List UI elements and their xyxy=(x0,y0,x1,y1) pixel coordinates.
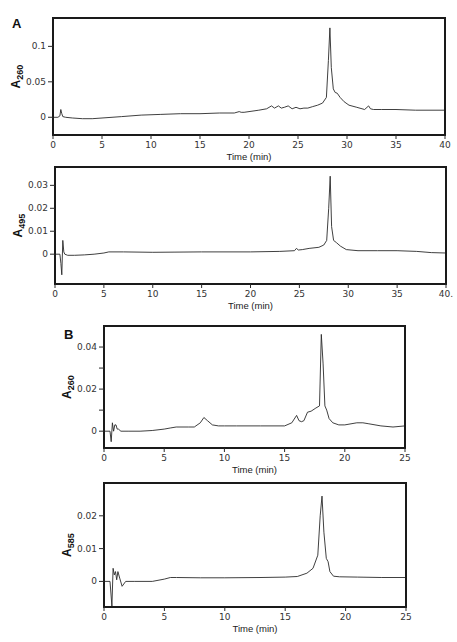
x-tick-label: 0 xyxy=(52,289,58,299)
chart-B-260: 051015202500.020.04Time (min)A260 xyxy=(60,326,411,475)
x-tick-label: 25 xyxy=(294,289,305,299)
plots: 051015202530354000.050.1Time (min)A26005… xyxy=(9,18,453,634)
x-tick-label: 0 xyxy=(101,612,107,622)
x-tick-label: 5 xyxy=(99,140,105,150)
y-tick-label: 0.02 xyxy=(77,511,97,521)
x-tick-label: 5 xyxy=(162,612,168,622)
trace-line xyxy=(53,28,445,119)
x-tick-label: 20 xyxy=(339,453,351,463)
y-tick-label: 0.1 xyxy=(32,41,46,51)
panel-label: B xyxy=(64,327,73,342)
x-axis-label: Time (min) xyxy=(232,464,277,475)
y-tick-label: 0.04 xyxy=(77,342,97,352)
x-tick-label: 40 xyxy=(439,140,451,150)
plot-frame xyxy=(104,483,406,607)
y-tick-label: 0.05 xyxy=(26,77,46,87)
chart-A-260: 051015202530354000.050.1Time (min)A260 xyxy=(9,18,451,162)
x-tick-label: 5 xyxy=(101,289,107,299)
x-tick-label: 10 xyxy=(219,453,231,463)
plot-frame xyxy=(55,167,446,284)
x-tick-label: 20 xyxy=(245,289,257,299)
x-tick-label: 0 xyxy=(50,140,56,150)
x-tick-label: 30 xyxy=(343,289,355,299)
x-tick-label: 40. xyxy=(439,289,453,299)
x-tick-label: 5 xyxy=(161,453,167,463)
y-tick-label: 0.01 xyxy=(28,226,48,236)
y-tick-label: 0 xyxy=(42,249,48,259)
x-tick-label: 0 xyxy=(101,453,107,463)
trace-line xyxy=(104,334,405,441)
x-tick-label: 35 xyxy=(391,289,402,299)
y-tick-label: 0.02 xyxy=(77,384,97,394)
trace-line xyxy=(55,176,446,275)
chart-A-495: 0510152025303540.00.010.020.03Time (min)… xyxy=(11,167,453,311)
x-tick-label: 20 xyxy=(243,140,255,150)
x-tick-label: 15 xyxy=(279,453,290,463)
y-tick-label: 0.01 xyxy=(77,544,97,554)
chromatogram-figure: AB 051015202530354000.050.1Time (min)A26… xyxy=(0,0,457,642)
y-tick-label: 0 xyxy=(91,576,97,586)
trace-line xyxy=(104,496,406,606)
panel-label: A xyxy=(12,16,22,31)
y-tick-label: 0.02 xyxy=(28,203,48,213)
y-tick-label: 0 xyxy=(40,112,46,122)
y-tick-label: 0 xyxy=(91,426,97,436)
x-axis-label: Time (min) xyxy=(226,151,271,162)
x-tick-label: 15 xyxy=(196,289,207,299)
x-tick-label: 20 xyxy=(340,612,352,622)
y-axis-label: A495 xyxy=(11,214,27,238)
x-tick-label: 10 xyxy=(147,289,159,299)
x-tick-label: 15 xyxy=(194,140,205,150)
x-tick-label: 25 xyxy=(292,140,303,150)
x-tick-label: 25 xyxy=(399,453,410,463)
y-tick-label: 0.03 xyxy=(28,180,48,190)
x-tick-label: 15 xyxy=(279,612,290,622)
x-axis-label: Time (min) xyxy=(232,623,277,634)
y-axis-label: A585 xyxy=(60,533,76,557)
x-tick-label: 35 xyxy=(390,140,401,150)
x-tick-label: 10 xyxy=(145,140,157,150)
x-tick-label: 30 xyxy=(341,140,353,150)
y-axis-label: A260 xyxy=(60,375,76,399)
x-tick-label: 10 xyxy=(219,612,231,622)
x-axis-label: Time (min) xyxy=(228,300,273,311)
x-tick-label: 25 xyxy=(400,612,411,622)
y-axis-label: A260 xyxy=(9,65,25,89)
chart-B-585: 051015202500.010.02Time (min)A585 xyxy=(60,483,412,634)
plot-frame xyxy=(104,326,405,448)
